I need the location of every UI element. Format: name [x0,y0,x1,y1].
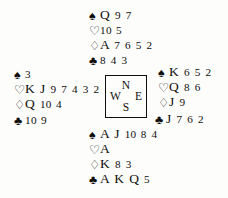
hand-east-hearts-cards: Q 8 6 [169,79,201,95]
hand-west-hearts-row: ♡ K J 9 7 4 3 2 [14,81,100,96]
heart-icon: ♡ [89,25,100,38]
heart-icon: ♡ [158,82,169,95]
club-icon: ♣ [14,115,25,128]
club-icon: ♣ [155,114,166,127]
hand-north-hearts-cards: 10 5 [100,22,123,38]
compass-label-north: N [122,80,130,92]
hand-north-diamonds-cards: A 7 6 5 2 [100,37,153,53]
compass-box: N W E S [105,75,147,118]
heart-icon: ♡ [14,84,25,97]
hand-west-hearts-cards: K J 9 7 4 3 2 [25,81,100,97]
hand-north: ♠ Q 9 7 ♡ 10 5 ♢ A 7 6 5 2 ♣ 8 4 3 [89,7,153,67]
hand-west-spades-cards: 3 [25,66,32,82]
hand-south-hearts-cards: A [100,141,111,156]
spade-icon: ♠ [89,10,100,23]
diamond-icon: ♢ [89,159,100,172]
hand-west-diamonds-row: ♢ Q 10 4 [14,96,100,111]
diamond-icon: ♢ [158,97,169,110]
hand-south-hearts-row: ♡ A [89,141,158,156]
hand-west-clubs-row: ♣ 10 9 [14,112,100,127]
hand-north-spades-cards: Q 9 7 [100,7,132,23]
spade-icon: ♠ [158,67,169,80]
hand-east-clubs-row: ♣ J 7 6 2 [155,111,209,126]
hand-west-diamonds-cards: Q 10 4 [25,96,63,112]
club-icon: ♣ [89,174,100,187]
hand-east-hearts-row: ♡ Q 8 6 [158,79,212,94]
hand-east-diamonds-row: ♢ J 9 [158,94,212,109]
compass-label-south: S [123,102,129,114]
hand-west-clubs-cards: 10 9 [25,112,48,128]
hand-east-spades-row: ♠ K 6 5 2 [158,64,212,79]
hand-west-spades-row: ♠ 3 [14,66,100,81]
compass-label-west: W [110,91,121,103]
compass-label-east: E [135,91,142,103]
hand-north-spades-row: ♠ Q 9 7 [89,7,153,22]
hand-south-diamonds-cards: K 8 3 [100,156,132,172]
hand-south-clubs-row: ♣ A K Q 5 [89,171,158,186]
hand-south: ♠ A J 10 8 4 ♡ A ♢ K 8 3 ♣ A K Q 5 [89,126,158,186]
hand-south-diamonds-row: ♢ K 8 3 [89,156,158,171]
hand-west: ♠ 3 ♡ K J 9 7 4 3 2 ♢ Q 10 4 ♣ 10 9 [14,66,100,126]
hand-east-diamonds-cards: J 9 [169,94,186,110]
hand-east-clubs-cards: J 7 6 2 [166,111,205,127]
hand-north-clubs-cards: 8 4 3 [100,52,128,68]
hand-east: ♠ K 6 5 2 ♡ Q 8 6 ♢ J 9 ♣ J 7 6 2 [158,64,212,124]
hand-south-spades-row: ♠ A J 10 8 4 [89,126,158,141]
hand-south-spades-cards: A J 10 8 4 [100,126,158,142]
diamond-icon: ♢ [14,99,25,112]
hand-north-clubs-row: ♣ 8 4 3 [89,52,153,67]
hand-south-clubs-cards: A K Q 5 [100,171,151,187]
spade-icon: ♠ [89,129,100,142]
spade-icon: ♠ [14,69,25,82]
heart-icon: ♡ [89,144,100,157]
hand-north-diamonds-row: ♢ A 7 6 5 2 [89,37,153,52]
bridge-deal-diagram: ♠ Q 9 7 ♡ 10 5 ♢ A 7 6 5 2 ♣ 8 4 3 ♠ 3 ♡… [0,0,228,198]
hand-east-spades-cards: K 6 5 2 [169,64,212,80]
diamond-icon: ♢ [89,40,100,53]
hand-north-hearts-row: ♡ 10 5 [89,22,153,37]
